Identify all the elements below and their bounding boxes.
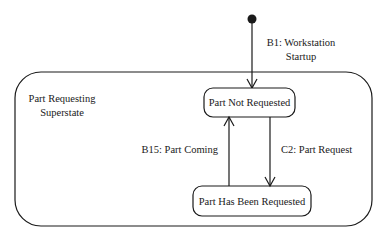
state-part-not-requested-label: Part Not Requested <box>209 97 291 108</box>
initial-state-icon <box>248 15 257 24</box>
transition-c2-label: C2: Part Request <box>281 144 352 155</box>
state-diagram: Part Requesting Superstate B1: Workstati… <box>0 0 387 235</box>
superstate-label-line1: Part Requesting <box>29 93 97 104</box>
transition-b15-label: B15: Part Coming <box>142 144 219 155</box>
superstate-label-line2: Superstate <box>40 107 84 118</box>
initial-transition-label-line2: Startup <box>286 51 316 62</box>
initial-transition-label-line1: B1: Workstation <box>267 37 336 48</box>
state-part-has-been-requested-label: Part Has Been Requested <box>199 196 306 207</box>
